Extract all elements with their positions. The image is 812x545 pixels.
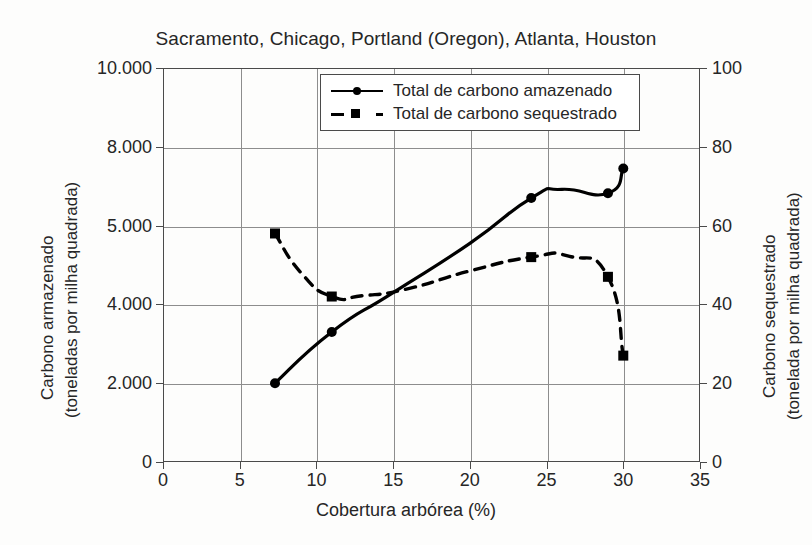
y-axis-right-tick-label: 20	[712, 373, 732, 394]
y-axis-left-tick-label: 2.000	[107, 373, 152, 394]
y-axis-left-tick	[156, 226, 163, 227]
gridline-vertical	[241, 69, 242, 461]
legend-label-armazenado: Total de carbono amazenado	[393, 81, 612, 101]
x-axis-tick	[240, 462, 241, 469]
gridline-horizontal	[164, 305, 699, 306]
y-axis-left-tick	[156, 383, 163, 384]
x-axis-tick	[316, 462, 317, 469]
y-axis-right-tick	[700, 304, 707, 305]
x-axis-tick-label: 0	[158, 470, 168, 491]
y-axis-right-title-line2: (tonelada por milha quadrada)	[784, 192, 804, 420]
legend-key-solid-line-icon	[329, 83, 385, 99]
gridline-horizontal	[164, 227, 699, 228]
x-axis-tick-label: 35	[690, 470, 710, 491]
y-axis-left-tick	[156, 462, 163, 463]
y-axis-right-tick-label: 0	[712, 452, 722, 473]
y-axis-left-tick-label: 5.000	[107, 215, 152, 236]
legend-label-sequestrado: Total de carbono sequestrado	[393, 104, 617, 124]
legend-item-sequestrado: Total de carbono sequestrado	[329, 102, 631, 125]
x-axis-tick	[623, 462, 624, 469]
chart-title: Sacramento, Chicago, Portland (Oregon), …	[0, 28, 812, 50]
x-axis-tick-label: 10	[306, 470, 326, 491]
y-axis-right-tick-label: 100	[712, 58, 742, 79]
y-axis-left-tick	[156, 304, 163, 305]
chart-legend: Total de carbono amazenado Total de carb…	[320, 74, 640, 131]
x-axis-title: Cobertura arbórea (%)	[0, 500, 812, 521]
y-axis-right-tick-label: 40	[712, 294, 732, 315]
x-axis-tick-label: 30	[613, 470, 633, 491]
y-axis-left-tick	[156, 147, 163, 148]
y-axis-left-tick-label: 10.000	[97, 58, 152, 79]
y-axis-right-tick-label: 60	[712, 215, 732, 236]
y-axis-left-title-line2: (toneladas por milha quadrada)	[62, 182, 82, 418]
x-axis-tick	[700, 462, 701, 469]
y-axis-left-tick-label: 8.000	[107, 136, 152, 157]
y-axis-left-tick-label: 0	[142, 452, 152, 473]
x-axis-tick-label: 25	[537, 470, 557, 491]
chart-figure: Sacramento, Chicago, Portland (Oregon), …	[0, 0, 812, 545]
y-axis-left-tick-label: 4.000	[107, 294, 152, 315]
y-axis-left-title-line1: Carbono armazenado	[38, 236, 58, 400]
x-axis-tick	[393, 462, 394, 469]
legend-item-armazenado: Total de carbono amazenado	[329, 79, 631, 102]
x-axis-tick	[470, 462, 471, 469]
legend-key-dashed-line-icon	[329, 106, 385, 122]
y-axis-right-tick	[700, 226, 707, 227]
y-axis-right-tick	[700, 147, 707, 148]
x-axis-tick-label: 20	[460, 470, 480, 491]
x-axis-tick	[163, 462, 164, 469]
y-axis-right-tick	[700, 383, 707, 384]
gridline-horizontal	[164, 148, 699, 149]
y-axis-right-tick	[700, 68, 707, 69]
y-axis-left-tick	[156, 68, 163, 69]
gridline-horizontal	[164, 384, 699, 385]
y-axis-right-title-line1: Carbono sequestrado	[760, 234, 780, 398]
y-axis-right-tick	[700, 462, 707, 463]
y-axis-right-tick-label: 80	[712, 136, 732, 157]
x-axis-tick-label: 15	[383, 470, 403, 491]
x-axis-tick	[547, 462, 548, 469]
gridline-vertical	[317, 69, 318, 461]
x-axis-tick-label: 5	[235, 470, 245, 491]
